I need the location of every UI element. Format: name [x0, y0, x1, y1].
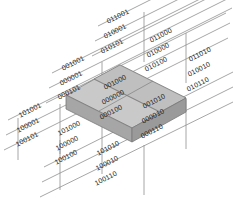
isometric-lattice-figure: 011001 010001 010101 011000 010000 01010… [0, 0, 233, 209]
